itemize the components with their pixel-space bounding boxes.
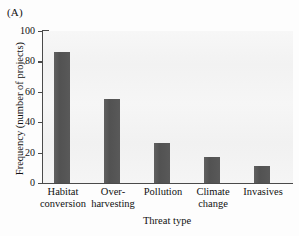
x-tick-label-line2: change [188,198,238,210]
bar [254,166,270,183]
y-tick-mark [38,183,43,184]
figure-panel: (A) Frequency (number of projects) 02040… [0,0,299,236]
bar [54,52,70,183]
bar [154,143,170,183]
y-tick-mark [38,61,43,62]
y-tick-label: 0 [30,178,35,188]
x-tick-label-line1: Pollution [144,186,183,197]
y-tick-label: 80 [25,56,35,66]
y-tick-label: 100 [20,26,35,36]
y-axis-title: Frequency (number of projects) [14,24,25,194]
x-tick-label-line1: Habitat [48,186,79,197]
x-tick-label: Invasives [238,186,288,198]
bar [104,99,120,183]
y-tick-mark [38,92,43,93]
y-tick-label: 20 [25,148,35,158]
x-axis-title: Threat type [42,215,292,226]
x-tick-label-line2: harvesting [88,198,138,210]
x-tick-label-line2: conversion [38,198,88,210]
x-tick-label-line1: Invasives [243,186,283,197]
y-tick-mark [38,122,43,123]
y-tick-label: 40 [25,117,35,127]
y-tick-mark [38,153,43,154]
x-tick-label: Habitatconversion [38,186,88,209]
x-tick-label-line1: Over- [101,186,125,197]
x-tick-label: Pollution [138,186,188,198]
x-tick-label-line1: Climate [196,186,229,197]
x-tick-label: Over-harvesting [88,186,138,209]
y-tick-mark [38,31,43,32]
y-tick-label: 60 [25,87,35,97]
plot-area: 020406080100 [42,31,293,184]
bar [204,157,220,183]
x-tick-label: Climatechange [188,186,238,209]
panel-label: (A) [7,6,23,18]
